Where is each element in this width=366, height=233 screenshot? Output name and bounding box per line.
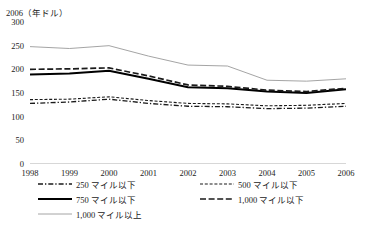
legend-line-swatch — [200, 180, 234, 188]
legend-item-label: 500 マイル以下 — [238, 178, 298, 190]
legend-line-swatch — [38, 195, 72, 203]
y-axis-tick: 200 — [0, 64, 24, 74]
legend-line-swatch — [38, 180, 72, 188]
series-line — [30, 97, 346, 106]
series-line — [30, 71, 346, 93]
legend-item: 250 マイル以下 — [38, 178, 136, 190]
legend-item-label: 750 マイル以下 — [76, 193, 136, 205]
x-axis-tick: 2005 — [287, 168, 327, 178]
legend-item-label: 1,000 マイル以上 — [76, 208, 142, 220]
line-chart-svg — [30, 22, 346, 164]
y-axis-tick: 100 — [0, 112, 24, 122]
x-axis-tick: 1999 — [50, 168, 90, 178]
legend-line-swatch — [200, 195, 234, 203]
y-axis-tick: 300 — [0, 17, 24, 27]
y-axis-tick: 150 — [0, 88, 24, 98]
chart-legend: 250 マイル以下500 マイル以下750 マイル以下1,000 マイル以下1,… — [30, 178, 360, 230]
x-axis-tick: 2000 — [89, 168, 129, 178]
legend-line-swatch — [38, 210, 72, 218]
legend-item: 1,000 マイル以下 — [200, 193, 304, 205]
y-axis-tick: 250 — [0, 41, 24, 51]
x-axis-tick: 2003 — [208, 168, 248, 178]
chart-figure: 2006（年ドル） 300250200150100500 19981999200… — [0, 0, 366, 233]
x-axis-tick: 2002 — [168, 168, 208, 178]
x-axis-tick: 2006 — [326, 168, 366, 178]
x-axis-tick: 2004 — [247, 168, 287, 178]
legend-item-label: 250 マイル以下 — [76, 178, 136, 190]
legend-item: 500 マイル以下 — [200, 178, 298, 190]
legend-item-label: 1,000 マイル以下 — [238, 193, 304, 205]
x-axis-tick: 1998 — [10, 168, 50, 178]
x-axis-tick: 2001 — [129, 168, 169, 178]
legend-item: 1,000 マイル以上 — [38, 208, 142, 220]
series-line — [30, 99, 346, 108]
legend-item: 750 マイル以下 — [38, 193, 136, 205]
plot-area — [30, 22, 346, 164]
series-line — [30, 46, 346, 82]
y-axis-tick: 50 — [0, 135, 24, 145]
